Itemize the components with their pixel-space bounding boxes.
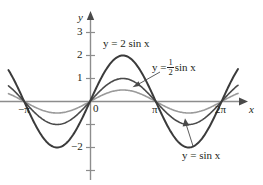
- fraction-denominator: 2: [167, 68, 173, 77]
- fraction-one-half: 12: [167, 58, 173, 77]
- x-tick-label-neg-pi: −π: [18, 104, 30, 115]
- curve-label-half-sin-prefix: y =: [152, 61, 166, 73]
- x-tick-label-2pi: 2π: [215, 104, 226, 115]
- x-axis-label: x: [249, 104, 254, 115]
- x-tick-label-pi: π: [152, 104, 158, 115]
- y-tick-label-neg2: −2: [71, 141, 83, 152]
- curve-label-2sin: y = 2 sin x: [103, 38, 150, 49]
- x-axis: [0, 98, 248, 106]
- y-tick-label-3: 3: [77, 26, 83, 37]
- y-axis-label: y: [78, 12, 83, 23]
- y-tick-label-1: 1: [77, 72, 83, 83]
- sine-amplitude-graph-figure: y x 3 2 1 −2 0 −π π 2π y = 2 sin x y =12…: [0, 0, 263, 185]
- curve-label-half-sin: y =12sin x: [152, 58, 196, 77]
- origin-label: 0: [93, 103, 99, 114]
- curve-label-half-sin-suffix: sin x: [175, 61, 196, 73]
- plot-canvas: [0, 0, 263, 185]
- y-tick-label-2: 2: [77, 49, 83, 60]
- curve-label-sin: y = sin x: [182, 150, 220, 161]
- leader-arrow-sin: [183, 118, 193, 146]
